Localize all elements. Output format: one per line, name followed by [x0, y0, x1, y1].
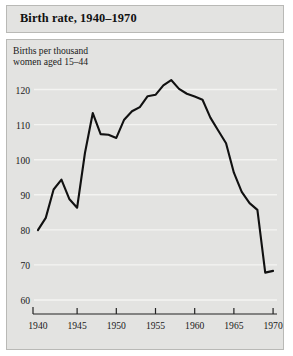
y-tick-label: 110	[8, 119, 30, 130]
x-tick-label: 1940	[21, 320, 55, 331]
x-tick-label: 1965	[217, 320, 251, 331]
y-tick-label: 60	[8, 294, 30, 305]
x-tick-label: 1950	[99, 320, 133, 331]
birth-rate-figure: Birth rate, 1940–1970 Births per thousan…	[0, 0, 293, 356]
chart-panel: Births per thousand women aged 15–44 607…	[6, 39, 284, 350]
birth-rate-line	[38, 80, 273, 273]
title-band: Birth rate, 1940–1970	[6, 5, 284, 33]
gridlines	[34, 90, 277, 300]
plot-area: 60708090100110120 1940194519501955196019…	[7, 40, 284, 350]
y-tick-label: 120	[8, 84, 30, 95]
y-tick-label: 100	[8, 154, 30, 165]
line-chart-svg	[7, 40, 284, 350]
page-title: Birth rate, 1940–1970	[20, 11, 137, 26]
x-tick-label: 1945	[60, 320, 94, 331]
y-tick-label: 90	[8, 189, 30, 200]
y-tick-label: 80	[8, 224, 30, 235]
axis-ticks	[77, 308, 273, 314]
x-tick-label: 1970	[256, 320, 284, 331]
y-tick-label: 70	[8, 259, 30, 270]
x-tick-label: 1955	[139, 320, 173, 331]
x-tick-label: 1960	[178, 320, 212, 331]
